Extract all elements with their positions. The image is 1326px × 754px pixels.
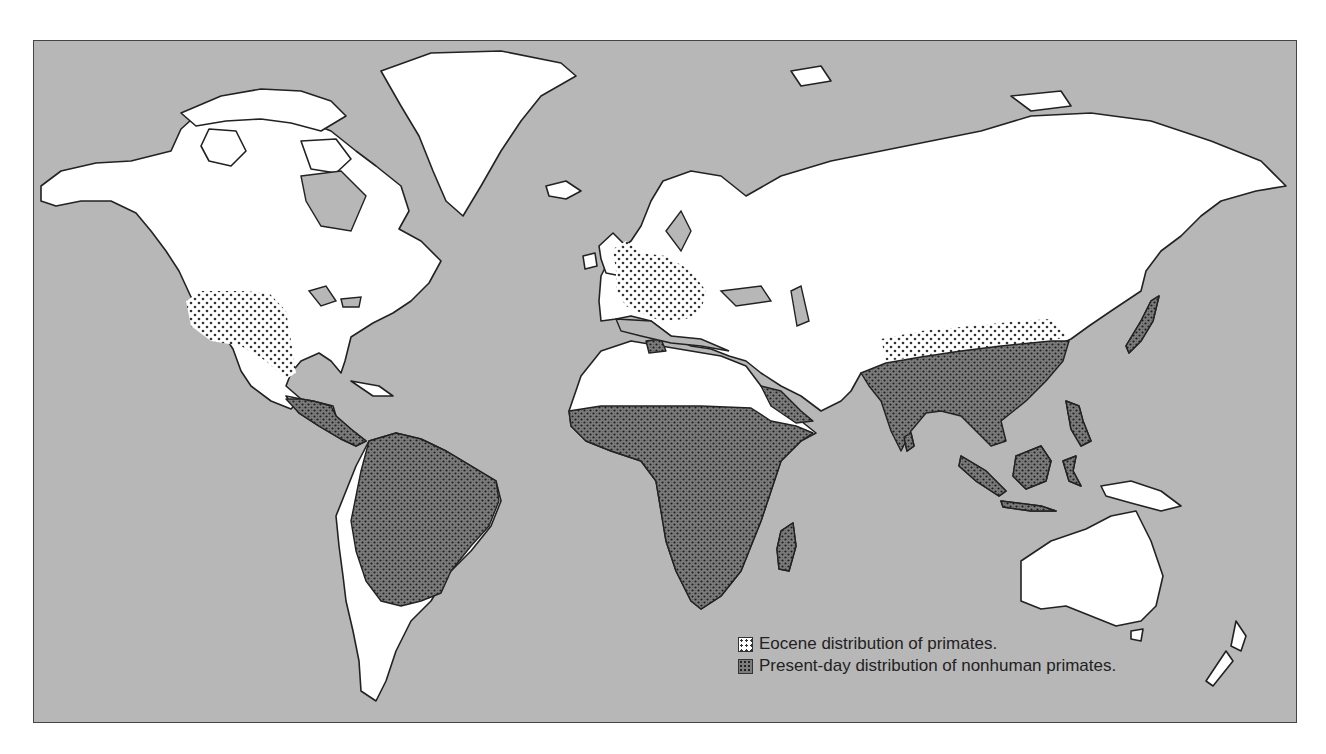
present-central-america bbox=[286, 399, 366, 446]
legend: Eocene distribution of primates. Present… bbox=[738, 633, 1116, 677]
present-java bbox=[1001, 501, 1056, 511]
present-sulawesi bbox=[1063, 456, 1081, 486]
present-south-america bbox=[351, 433, 499, 606]
present-sri-lanka bbox=[904, 433, 914, 451]
map-frame: Eocene distribution of primates. Present… bbox=[33, 40, 1297, 723]
present-sumatra bbox=[959, 456, 1006, 496]
present-day-swatch-icon bbox=[738, 659, 753, 674]
australia bbox=[1021, 511, 1163, 626]
legend-label-present-day: Present-day distribution of nonhuman pri… bbox=[759, 656, 1116, 676]
present-philippines bbox=[1066, 401, 1091, 446]
legend-item-present-day: Present-day distribution of nonhuman pri… bbox=[738, 655, 1116, 677]
present-japan bbox=[1126, 296, 1159, 353]
legend-item-eocene: Eocene distribution of primates. bbox=[738, 633, 1116, 655]
present-borneo bbox=[1013, 446, 1051, 489]
present-africa bbox=[569, 406, 813, 609]
new-guinea bbox=[1101, 481, 1181, 511]
eocene-swatch-icon bbox=[738, 637, 753, 652]
world-map bbox=[34, 41, 1296, 722]
present-madagascar bbox=[777, 523, 796, 571]
legend-label-eocene: Eocene distribution of primates. bbox=[759, 634, 997, 654]
